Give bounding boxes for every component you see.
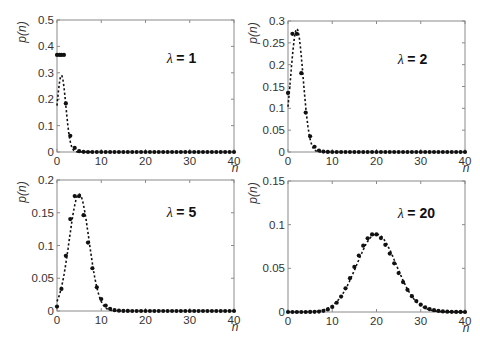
data-point (179, 309, 183, 313)
plot-frame (288, 21, 465, 152)
data-point (335, 301, 339, 305)
data-point (428, 307, 432, 311)
data-point (179, 150, 183, 154)
data-point (77, 149, 81, 153)
x-tick-label: 10 (326, 155, 339, 167)
data-point (197, 309, 201, 313)
data-point (290, 32, 294, 36)
lambda-annotation: λ = 1 (166, 50, 197, 66)
data-point (192, 309, 196, 313)
data-point (445, 150, 449, 154)
data-point (219, 309, 223, 313)
y-tick-label: 0.4 (38, 40, 55, 52)
x-axis-label: n (463, 161, 470, 175)
data-point (219, 150, 223, 154)
data-point (410, 294, 414, 298)
data-point (126, 309, 130, 313)
data-point (392, 261, 396, 265)
y-tick-label: 0.2 (38, 93, 54, 105)
x-tick-label: 0 (285, 155, 291, 167)
data-point (330, 305, 334, 309)
data-point (414, 299, 418, 303)
data-point (68, 134, 72, 138)
x-tick-label: 10 (95, 314, 108, 326)
gaussian-curve (57, 75, 92, 152)
data-point (139, 150, 143, 154)
data-point (126, 150, 130, 154)
data-point (299, 310, 303, 314)
data-point (148, 150, 152, 154)
data-point (183, 150, 187, 154)
data-point (339, 295, 343, 299)
data-point (290, 310, 294, 314)
lambda-annotation: λ = 20 (397, 205, 435, 221)
data-point (197, 150, 201, 154)
data-point (405, 150, 409, 154)
data-point (112, 150, 116, 154)
data-point (357, 254, 361, 258)
data-point (321, 150, 325, 154)
data-point (201, 150, 205, 154)
data-point (214, 150, 218, 154)
data-point (59, 287, 63, 291)
data-point (73, 194, 77, 198)
lambda-annotation: λ = 5 (166, 204, 197, 220)
data-point (432, 150, 436, 154)
data-point (383, 150, 387, 154)
plot-frame (288, 181, 465, 312)
x-tick-label: 30 (183, 155, 196, 167)
panel-lambda-5: 01020304000.050.10.150.2p(n)nλ = 5 (15, 174, 240, 334)
x-tick-label: 30 (183, 314, 196, 326)
data-point (436, 309, 440, 313)
x-tick-label: 10 (95, 155, 108, 167)
data-point (410, 150, 414, 154)
y-tick-label: 0.1 (38, 120, 54, 132)
data-point (68, 217, 72, 221)
x-tick-label: 20 (139, 314, 152, 326)
data-point (343, 286, 347, 290)
data-point (90, 150, 94, 154)
y-tick-label: 0.2 (38, 174, 54, 186)
y-tick-label: 0.25 (263, 37, 285, 49)
data-point (397, 271, 401, 275)
data-point (157, 309, 161, 313)
y-tick-label: 0 (48, 305, 54, 317)
data-point (112, 308, 116, 312)
data-point (108, 150, 112, 154)
data-point (166, 309, 170, 313)
data-point (326, 307, 330, 311)
data-point (317, 309, 321, 313)
data-point (383, 243, 387, 247)
data-point (357, 150, 361, 154)
x-tick-label: 0 (54, 314, 60, 326)
data-point (419, 150, 423, 154)
x-axis-label: n (232, 320, 239, 334)
data-point (392, 150, 396, 154)
data-point (405, 288, 409, 292)
data-point (161, 309, 165, 313)
panel-lambda-2: 01020304000.050.10.150.20.250.3p(n)nλ = … (246, 15, 471, 175)
y-tick-label: 0.05 (263, 262, 285, 274)
x-tick-label: 30 (414, 155, 427, 167)
data-point (86, 150, 90, 154)
data-point (458, 310, 462, 314)
lambda-annotation: λ = 2 (397, 51, 428, 67)
data-point (343, 150, 347, 154)
data-point (308, 310, 312, 314)
data-point (348, 150, 352, 154)
data-point (188, 150, 192, 154)
y-tick-label: 0.5 (38, 14, 54, 26)
data-point (352, 150, 356, 154)
data-point (121, 150, 125, 154)
data-point (170, 309, 174, 313)
x-tick-label: 20 (139, 155, 152, 167)
data-point (441, 309, 445, 313)
x-tick-label: 0 (54, 155, 60, 167)
data-point (232, 150, 236, 154)
data-point (454, 150, 458, 154)
poisson-distribution-figure: 01020304000.10.20.30.40.5p(n)nλ = 101020… (0, 0, 480, 346)
y-tick-label: 0.05 (263, 124, 285, 136)
data-point (73, 146, 77, 150)
data-point (90, 266, 94, 270)
data-point (183, 309, 187, 313)
